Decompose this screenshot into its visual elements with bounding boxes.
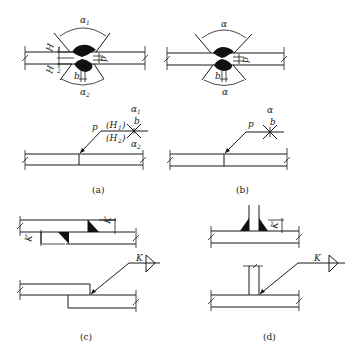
sym-label-b: b xyxy=(134,116,140,126)
angle-arc-alpha1 xyxy=(60,28,106,36)
leader-arrow xyxy=(260,263,298,294)
label-alpha-top: α xyxy=(221,19,227,29)
label-p: p xyxy=(98,56,108,62)
label-p: p xyxy=(240,57,250,63)
panel-a-symbol-view: p (H 1 ) (H 2 ) α 1 b α 2 xyxy=(22,104,148,170)
fillet-weld-lower xyxy=(58,232,69,244)
label-K-top: K xyxy=(269,220,280,231)
caption-b: (b) xyxy=(236,185,249,195)
panel-d-section-view: K xyxy=(208,205,302,248)
fillet-weld-upper xyxy=(88,220,99,232)
sym-label-p: p xyxy=(248,119,254,129)
label-b: b xyxy=(215,71,221,81)
weld-bead-bottom xyxy=(214,59,232,71)
caption-c: (c) xyxy=(80,332,92,342)
svg-text:2: 2 xyxy=(136,143,141,150)
weld-bead-top xyxy=(72,45,96,57)
svg-text:2: 2 xyxy=(85,91,90,98)
panel-a-section-view: α 1 α 2 H 1 H 2 p b xyxy=(22,15,148,98)
panel-b: α α p b p xyxy=(164,19,290,195)
caption-a: (a) xyxy=(92,185,104,195)
panel-c: K K K (c) xyxy=(17,215,160,342)
svg-text:2: 2 xyxy=(56,67,61,74)
sym-label-K: K xyxy=(313,253,322,263)
weld-symbol-diagram: α 1 α 2 H 1 H 2 p b xyxy=(0,0,363,361)
sym-label-H1: (H xyxy=(106,120,118,130)
panel-a: α 1 α 2 H 1 H 2 p b xyxy=(22,15,148,195)
panel-b-section-view: α α p b xyxy=(164,19,287,97)
panel-b-symbol-view: p α b xyxy=(167,105,290,170)
label-alpha-bottom: α xyxy=(222,87,228,97)
sym-label-K: K xyxy=(135,253,144,263)
leader-arrow xyxy=(91,263,129,294)
label-K-top: K xyxy=(102,215,113,226)
sym-label-H2: (H xyxy=(106,133,118,143)
sym-label-p: p xyxy=(92,122,98,132)
panel-c-symbol-view: K xyxy=(17,253,160,312)
caption-d: (d) xyxy=(263,332,276,342)
svg-text:1: 1 xyxy=(57,45,61,52)
sym-label-b: b xyxy=(270,117,276,127)
sym-label-alpha: α xyxy=(267,105,273,115)
svg-text:): ) xyxy=(121,133,126,143)
svg-text:1: 1 xyxy=(86,19,90,26)
panel-d-symbol-view: K xyxy=(208,253,345,311)
angle-arc-alpha2 xyxy=(61,79,104,85)
fillet-weld-right xyxy=(259,218,268,231)
angle-arc-alpha-bottom xyxy=(204,80,244,86)
label-K-left: K xyxy=(23,233,34,244)
panel-d: K K (d) xyxy=(208,205,345,342)
angle-arc-alpha-top xyxy=(202,30,246,38)
panel-c-section-view: K K xyxy=(17,215,139,248)
fillet-weld-left xyxy=(240,218,249,231)
svg-text:): ) xyxy=(121,120,126,130)
label-H2: H xyxy=(44,64,56,75)
weld-bead-top xyxy=(213,47,234,58)
label-b: b xyxy=(74,71,80,81)
svg-text:1: 1 xyxy=(137,108,141,115)
